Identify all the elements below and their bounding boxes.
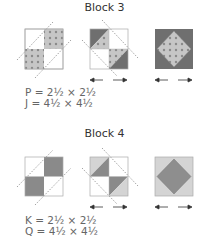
block-3-dims-j: J = 4½ × 4½	[25, 98, 93, 109]
pressing-arrows-3	[155, 78, 192, 82]
four-patch-square	[17, 150, 71, 205]
block-3-title: Block 3	[0, 1, 209, 14]
pressing-arrows-2	[90, 78, 127, 82]
block-4-dims-q: Q = 4½ × 4½	[25, 226, 98, 237]
block-4-diagram	[0, 145, 209, 215]
half-square-triangle-square	[82, 148, 138, 204]
pressing-arrows-3	[155, 205, 192, 209]
four-patch-square	[17, 22, 71, 78]
square-in-square	[155, 157, 193, 196]
square-in-square	[155, 29, 193, 69]
half-square-triangle-square	[82, 20, 138, 76]
pressing-arrows-2	[90, 205, 127, 209]
block-4-title: Block 4	[0, 127, 209, 140]
